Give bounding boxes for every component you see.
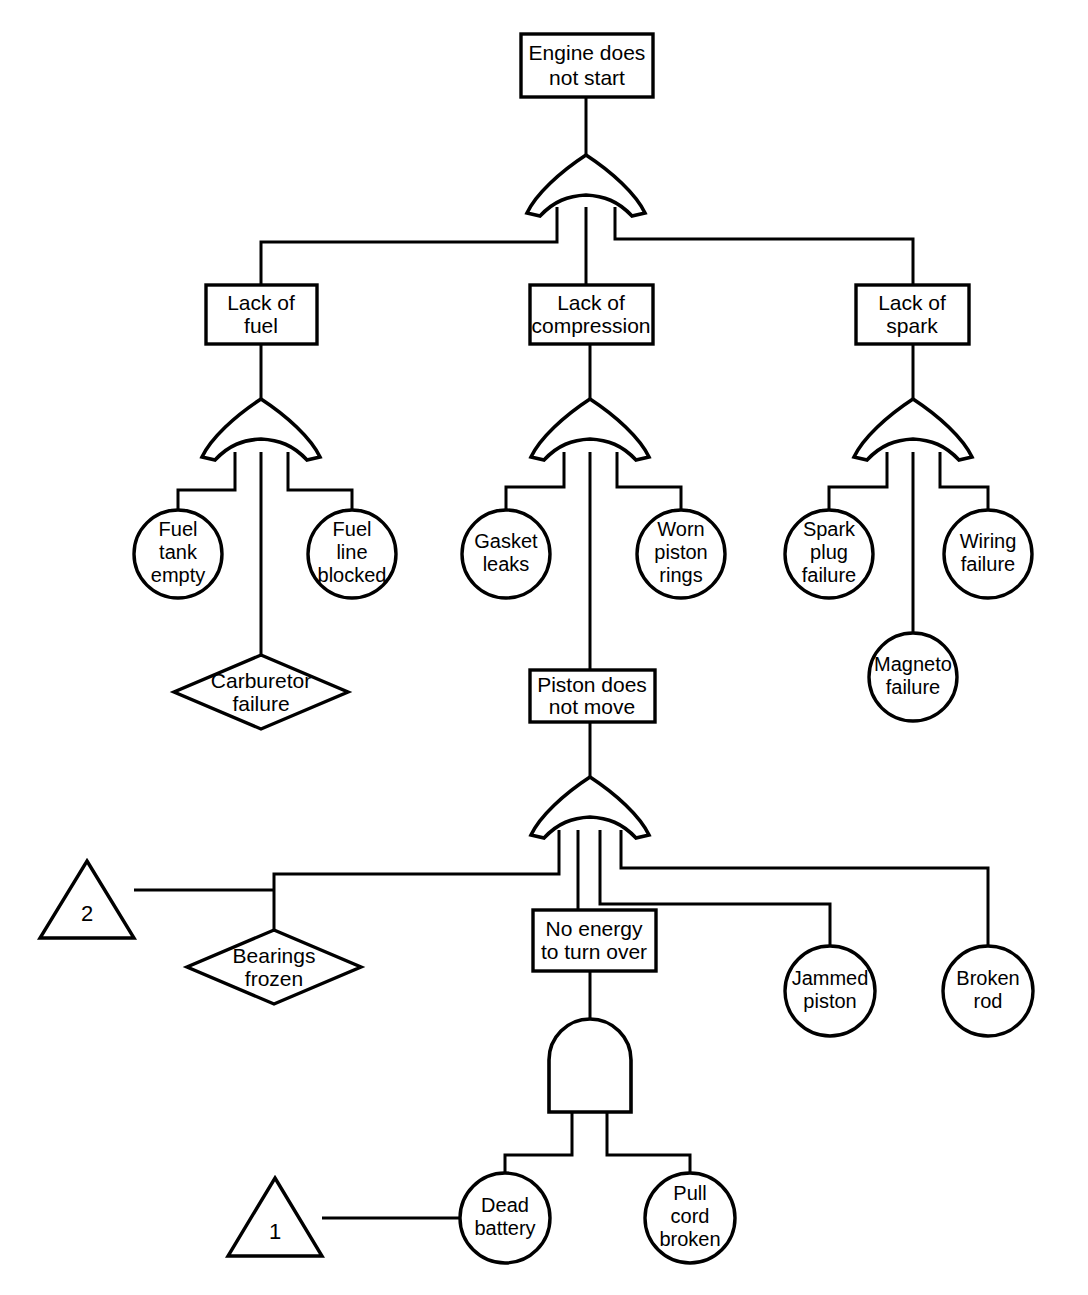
node-label-lackcomp-line2: compression (531, 314, 650, 337)
node-broken-rod[interactable]: Broken rod (943, 946, 1033, 1036)
node-label-fueltank-line2: tank (159, 541, 198, 563)
wire-gate-fuel-left-leg (178, 452, 235, 510)
node-label-top-line1: Engine does (529, 41, 646, 64)
node-bearings-frozen[interactable]: Bearings frozen (187, 930, 361, 1004)
node-label-wornrings-line2: piston (654, 541, 707, 563)
wire-gate-comp-right-leg (617, 452, 681, 510)
node-label-lackfuel-line1: Lack of (227, 291, 295, 314)
node-label-fuelline-line2: line (336, 541, 367, 563)
node-wiring-failure[interactable]: Wiring failure (944, 510, 1032, 598)
node-label-gasket-line2: leaks (483, 553, 530, 575)
wire-gate-top-right-leg (615, 207, 913, 285)
node-label-wiring-line2: failure (961, 553, 1015, 575)
node-label-bearings-line2: frozen (245, 967, 303, 990)
node-layer: Engine does not start Lack of fuel Lack … (40, 34, 1033, 1263)
node-label-bearings-line1: Bearings (233, 944, 316, 967)
wire-gate-and-left-leg (505, 1111, 572, 1173)
node-label-jammed-line2: piston (803, 990, 856, 1012)
or-gate-lack-of-fuel[interactable] (202, 399, 320, 460)
node-pull-cord-broken[interactable]: Pull cord broken (645, 1173, 735, 1263)
node-lack-of-spark[interactable]: Lack of spark (856, 285, 969, 344)
node-fuel-tank-empty[interactable]: Fuel tank empty (134, 510, 222, 598)
node-label-brokenrod-line1: Broken (956, 967, 1019, 989)
wire-gate-piston-leg1 (274, 830, 559, 930)
node-label-lackcomp-line1: Lack of (557, 291, 625, 314)
node-lack-of-compression[interactable]: Lack of compression (530, 285, 653, 344)
node-label-sparkplug-line2: plug (810, 541, 848, 563)
node-label-brokenrod-line2: rod (974, 990, 1003, 1012)
or-gate-piston-does-not-move[interactable] (531, 777, 649, 838)
node-label-fueltank-line1: Fuel (159, 518, 198, 540)
node-label-lackspark-line1: Lack of (878, 291, 946, 314)
transfer-gate-1[interactable]: 1 (228, 1178, 322, 1256)
node-jammed-piston[interactable]: Jammed piston (785, 946, 875, 1036)
node-label-sparkplug-line3: failure (802, 564, 856, 586)
node-label-pistonmove-line1: Piston does (537, 673, 647, 696)
node-engine-does-not-start[interactable]: Engine does not start (521, 34, 653, 97)
or-gate-lack-of-compression[interactable] (531, 399, 649, 460)
wire-gate-piston-leg4 (621, 830, 988, 946)
wire-gate-spark-left-leg (829, 452, 887, 510)
node-label-deadbattery-line1: Dead (481, 1194, 529, 1216)
node-lack-of-fuel[interactable]: Lack of fuel (206, 285, 317, 344)
and-gate-no-energy[interactable] (549, 1019, 631, 1112)
node-label-fuelline-line1: Fuel (333, 518, 372, 540)
wire-gate-and-right-leg (607, 1111, 690, 1173)
wire-gate-spark-right-leg (940, 452, 988, 510)
transfer-label-1: 1 (269, 1219, 281, 1244)
node-fuel-line-blocked[interactable]: Fuel line blocked (308, 510, 396, 598)
node-label-magneto-line1: Magneto (874, 653, 952, 675)
node-label-pistonmove-line2: not move (549, 695, 635, 718)
node-label-carburetor-line2: failure (232, 692, 289, 715)
node-label-fueltank-line3: empty (151, 564, 205, 586)
node-no-energy-to-turn-over[interactable]: No energy to turn over (533, 910, 656, 971)
node-carburetor-failure[interactable]: Carburetor failure (174, 655, 348, 729)
node-label-lackfuel-line2: fuel (244, 314, 278, 337)
node-gasket-leaks[interactable]: Gasket leaks (462, 510, 550, 598)
transfer-gate-2[interactable]: 2 (40, 861, 134, 938)
node-label-pullcord-line1: Pull (673, 1182, 706, 1204)
node-label-gasket-line1: Gasket (474, 530, 538, 552)
or-gate-top[interactable] (527, 155, 645, 216)
node-label-pullcord-line3: broken (659, 1228, 720, 1250)
node-label-fuelline-line3: blocked (318, 564, 387, 586)
wire-gate-fuel-right-leg (288, 452, 352, 510)
node-label-carburetor-line1: Carburetor (211, 669, 311, 692)
node-label-noenergy-line2: to turn over (541, 940, 647, 963)
node-piston-does-not-move[interactable]: Piston does not move (530, 670, 655, 722)
node-label-wornrings-line3: rings (659, 564, 702, 586)
node-label-top-line2: not start (549, 66, 625, 89)
node-label-wiring-line1: Wiring (960, 530, 1017, 552)
node-label-wornrings-line1: Worn (657, 518, 704, 540)
node-label-lackspark-line2: spark (886, 314, 938, 337)
node-label-deadbattery-line2: battery (474, 1217, 535, 1239)
node-label-magneto-line2: failure (886, 676, 940, 698)
transfer-label-2: 2 (81, 901, 93, 926)
fault-tree-diagram: Engine does not start Lack of fuel Lack … (0, 0, 1088, 1295)
node-dead-battery[interactable]: Dead battery (460, 1173, 550, 1263)
node-worn-piston-rings[interactable]: Worn piston rings (637, 510, 725, 598)
or-gate-lack-of-spark[interactable] (854, 399, 972, 460)
node-magneto-failure[interactable]: Magneto failure (869, 633, 957, 721)
wire-gate-top-left-leg (261, 207, 557, 285)
node-label-noenergy-line1: No energy (546, 917, 643, 940)
wire-gate-comp-left-leg (506, 452, 564, 510)
node-label-pullcord-line2: cord (671, 1205, 710, 1227)
node-label-sparkplug-line1: Spark (803, 518, 856, 540)
node-label-jammed-line1: Jammed (792, 967, 869, 989)
node-spark-plug-failure[interactable]: Spark plug failure (785, 510, 873, 598)
